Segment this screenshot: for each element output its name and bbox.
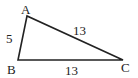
vertex-label-c: C [121,60,130,75]
triangle-diagram: A B C 5 13 13 [0,0,138,78]
triangle-abc [18,16,123,60]
side-label-bc: 13 [65,63,78,78]
vertex-label-b: B [7,62,16,77]
side-label-ac: 13 [73,23,86,38]
vertex-label-a: A [21,2,31,17]
side-label-ab: 5 [6,31,13,46]
